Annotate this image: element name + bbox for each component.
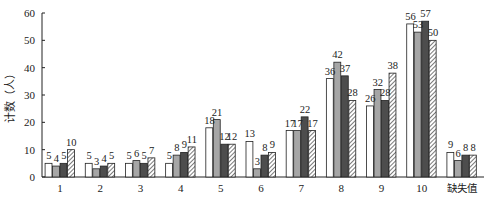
bar-value-label: 26 — [365, 93, 376, 104]
x-tick-label: 缺失值 — [447, 182, 478, 194]
bar-series-4 — [108, 163, 115, 177]
bar-value-label: 36 — [325, 66, 336, 77]
bar-series-2 — [53, 166, 60, 177]
bar-series-4 — [349, 100, 356, 177]
bar-series-4 — [469, 155, 476, 177]
bar-value-label: 21 — [212, 107, 223, 118]
x-tick-label: 7 — [298, 182, 304, 194]
bar-value-label: 8 — [174, 142, 179, 153]
bar-series-4 — [148, 158, 155, 177]
bar-value-label: 5 — [109, 150, 114, 161]
bar-chart: 计数（人） 010203040506012345678910缺失值 545105… — [0, 0, 486, 200]
bar-series-3 — [382, 100, 389, 177]
bar-series-4 — [228, 144, 235, 177]
bar-value-label: 5 — [127, 150, 132, 161]
bar-value-label: 53 — [413, 19, 424, 30]
bar-series-4 — [309, 131, 316, 177]
bar-series-3 — [261, 155, 268, 177]
y-tick-label: 60 — [24, 7, 36, 19]
bar-series-1 — [407, 24, 414, 177]
bar-series-3 — [100, 166, 107, 177]
x-tick-label: 2 — [98, 182, 104, 194]
bar-series-1 — [447, 152, 454, 177]
bar-series-2 — [173, 155, 180, 177]
x-tick-label: 6 — [258, 182, 264, 194]
bar-value-label: 4 — [54, 153, 60, 164]
bar-series-2 — [454, 161, 461, 177]
bar-value-label: 3 — [94, 156, 99, 167]
x-tick-label: 10 — [416, 182, 428, 194]
bar-series-3 — [422, 21, 429, 177]
bar-value-label: 5 — [46, 150, 51, 161]
bar-series-4 — [68, 150, 75, 177]
y-tick-label: 50 — [24, 34, 36, 46]
bar-value-label: 42 — [332, 49, 343, 60]
bar-value-label: 9 — [448, 139, 453, 150]
bar-value-label: 38 — [388, 60, 399, 71]
y-tick-label: 20 — [24, 116, 36, 128]
bar-series-1 — [125, 163, 132, 177]
x-tick-label: 5 — [218, 182, 224, 194]
bar-series-3 — [140, 163, 147, 177]
bar-value-label: 8 — [471, 142, 476, 153]
bar-series-3 — [462, 155, 469, 177]
bar-series-2 — [133, 161, 140, 177]
bar-value-label: 12 — [227, 131, 238, 142]
bar-value-label: 28 — [380, 87, 391, 98]
x-tick-label: 9 — [379, 182, 385, 194]
bar-series-1 — [367, 106, 374, 177]
bar-series-2 — [294, 131, 301, 177]
bar-value-label: 28 — [347, 87, 358, 98]
bar-series-4 — [429, 40, 436, 177]
bar-value-label: 5 — [167, 150, 172, 161]
bar-series-2 — [414, 32, 421, 177]
bar-value-label: 57 — [420, 8, 431, 19]
bar-value-label: 8 — [262, 142, 267, 153]
bar-value-label: 6 — [134, 148, 139, 159]
y-tick-label: 0 — [30, 171, 36, 183]
bar-value-label: 5 — [142, 150, 147, 161]
bar-value-label: 3 — [255, 156, 260, 167]
bar-value-label: 32 — [373, 77, 384, 88]
bar-series-1 — [166, 163, 173, 177]
bar-value-label: 13 — [245, 128, 256, 139]
bar-series-1 — [246, 141, 253, 177]
bar-value-label: 10 — [66, 137, 77, 148]
bar-value-label: 9 — [270, 139, 275, 150]
x-tick-label: 1 — [57, 182, 63, 194]
bar-series-2 — [93, 169, 100, 177]
x-tick-label: 8 — [339, 182, 345, 194]
bar-value-label: 4 — [101, 153, 107, 164]
x-tick-label: 3 — [138, 182, 144, 194]
bar-value-label: 17 — [292, 118, 303, 129]
bar-value-label: 50 — [428, 27, 439, 38]
bar-series-3 — [181, 152, 188, 177]
bar-series-1 — [85, 163, 92, 177]
y-axis-title: 计数（人） — [4, 68, 17, 123]
bar-value-label: 11 — [187, 134, 197, 145]
y-tick-label: 40 — [24, 62, 36, 74]
bar-series-3 — [221, 144, 228, 177]
bar-series-2 — [254, 169, 261, 177]
bar-series-2 — [334, 62, 341, 177]
bar-series-1 — [326, 79, 333, 177]
bar-series-1 — [286, 131, 293, 177]
bar-series-1 — [45, 163, 52, 177]
bar-value-label: 22 — [300, 104, 311, 115]
bar-value-label: 5 — [86, 150, 91, 161]
y-tick-label: 30 — [24, 89, 36, 101]
bar-value-label: 17 — [307, 118, 318, 129]
bar-value-label: 7 — [149, 145, 154, 156]
bar-series-2 — [213, 120, 220, 177]
bar-series-4 — [188, 147, 195, 177]
bar-series-4 — [269, 152, 276, 177]
x-tick-label: 4 — [178, 182, 184, 194]
bar-series-3 — [60, 163, 67, 177]
bar-value-label: 8 — [463, 142, 468, 153]
bar-value-label: 6 — [456, 148, 461, 159]
bar-value-label: 37 — [340, 63, 351, 74]
y-axis-label: 计数（人） — [4, 68, 17, 123]
y-tick-label: 10 — [24, 144, 36, 156]
bar-value-label: 5 — [61, 150, 66, 161]
bar-series-1 — [206, 128, 213, 177]
